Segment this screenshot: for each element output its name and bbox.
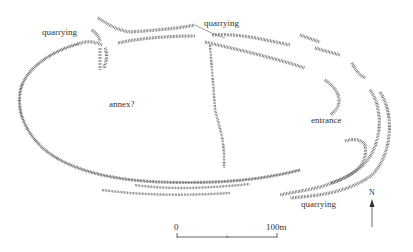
label-quarrying-north: quarrying (204, 19, 239, 28)
earthworks-drawing (0, 0, 413, 252)
outer-ditch-south-1 (135, 184, 250, 188)
north-arrow-icon (370, 199, 375, 227)
outer-bank-north (98, 18, 195, 32)
inner-rampart-north (78, 36, 305, 68)
hillfort-plan: quarrying quarrying annex? entrance quar… (0, 0, 413, 252)
entrance-arc-north (325, 80, 339, 115)
inner-rampart-west (19, 44, 300, 183)
label-quarrying-southeast: quarrying (301, 200, 336, 209)
scale-bar (177, 233, 277, 238)
scale-end-label: 100m (266, 223, 287, 232)
scale-start-label: 0 (174, 223, 179, 232)
north-label: N (369, 189, 375, 197)
label-quarrying-northwest: quarrying (42, 28, 77, 37)
label-entrance: entrance (311, 116, 341, 125)
entrance-arc-south (330, 140, 366, 183)
annex-divider (210, 45, 224, 168)
north-bank-east (212, 35, 365, 78)
outer-ditch-south-2 (102, 190, 230, 195)
label-annex: annex? (109, 100, 134, 109)
quarry-nw (92, 30, 107, 70)
